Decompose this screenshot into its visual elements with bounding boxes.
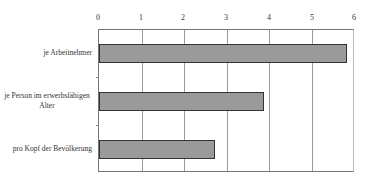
y-tick: [96, 77, 99, 78]
x-tick-6: 6: [352, 13, 356, 22]
category-label-1: je Person im erwerbsfähigen Alter: [2, 91, 92, 111]
y-tick: [96, 125, 99, 126]
category-label-0: je Arbeitnehmer: [2, 48, 92, 58]
category-label-1-line1: je Person im erwerbsfähigen: [2, 91, 92, 101]
bar-je-person-erwerbsfaehig: [99, 92, 264, 111]
x-tick-5: 5: [310, 13, 314, 22]
category-label-2: pro Kopf der Bevölkerung: [2, 144, 92, 154]
x-tick-2: 2: [181, 13, 185, 22]
bar-pro-kopf: [99, 140, 215, 159]
plot-area: [98, 29, 354, 172]
x-tick-0: 0: [96, 13, 100, 22]
x-tick-4: 4: [267, 13, 271, 22]
category-label-1-line2: Alter: [2, 101, 92, 111]
x-tick-1: 1: [139, 13, 143, 22]
bar-je-arbeitnehmer: [99, 44, 347, 63]
x-tick-3: 3: [224, 13, 228, 22]
